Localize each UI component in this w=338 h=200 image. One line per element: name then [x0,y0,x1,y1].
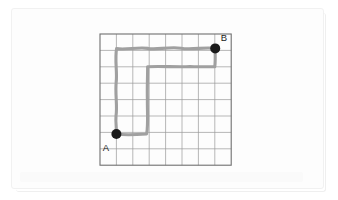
node-a-dot [111,129,121,139]
grid-path-figure: A B [0,0,338,200]
page-root: A B [0,0,338,200]
figure-canvas: A B [0,0,338,200]
grid-lines [100,34,231,165]
node-b-label: B [221,32,227,43]
node-b-dot [210,43,220,53]
node-a-label: A [103,142,110,153]
